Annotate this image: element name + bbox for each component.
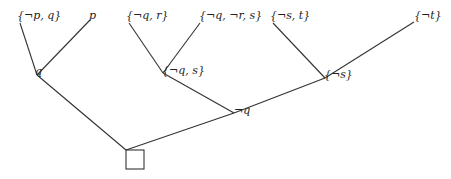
tree-edge — [129, 23, 163, 73]
clause-label: ¬q — [234, 105, 250, 117]
tree-edge — [273, 23, 325, 78]
clause-label: {¬s} — [324, 69, 353, 81]
clause-label: {¬q, ¬r, s} — [199, 10, 262, 22]
tree-edge — [37, 20, 90, 75]
tree-edge — [126, 113, 234, 150]
clause-label: {¬t} — [414, 10, 442, 22]
clause-label: {¬p, q} — [17, 10, 61, 22]
clause-label: {¬q, r} — [126, 10, 169, 22]
empty-clause-box — [126, 150, 144, 169]
clause-label: {¬q, s} — [162, 65, 205, 77]
clause-label: q — [35, 66, 42, 78]
tree-edges — [0, 0, 451, 179]
tree-edge — [163, 73, 234, 113]
clause-label: p — [89, 10, 96, 22]
clause-label: {¬s, t} — [270, 10, 310, 22]
tree-edge — [37, 75, 126, 150]
resolution-tree-diagram: {¬p, q}pq{¬q, r}{¬q, ¬r, s}{¬q, s}¬q{¬s,… — [0, 0, 451, 179]
